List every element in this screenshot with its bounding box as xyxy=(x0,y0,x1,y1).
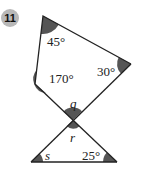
problem-number-badge: 11 xyxy=(1,9,19,27)
label-s: s xyxy=(45,148,50,163)
svg-text:11: 11 xyxy=(4,12,16,24)
label-45: 45° xyxy=(47,34,65,49)
label-25: 25° xyxy=(82,148,100,163)
angle-diagram: 11 45° 30° 170° q r s 25° xyxy=(0,0,144,175)
label-r: r xyxy=(70,130,76,145)
label-170: 170° xyxy=(49,71,74,86)
label-30: 30° xyxy=(97,64,115,79)
angle-markers xyxy=(31,16,131,162)
figure-lines xyxy=(31,16,131,162)
label-q: q xyxy=(70,96,77,111)
angle-marker-45 xyxy=(41,16,59,34)
